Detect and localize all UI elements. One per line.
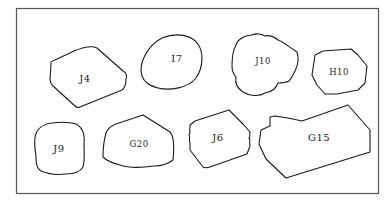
label-j9: J9 bbox=[52, 143, 64, 154]
shape-h10: H10 bbox=[312, 49, 367, 94]
fragment-diagram: J4 I7 J10 H10 J9 G20 J6 G15 bbox=[0, 0, 387, 206]
shape-i7: I7 bbox=[141, 35, 202, 89]
shape-j6: J6 bbox=[189, 110, 250, 168]
label-j6: J6 bbox=[211, 132, 223, 143]
label-g15: G15 bbox=[308, 132, 330, 143]
label-h10: H10 bbox=[329, 67, 349, 77]
shape-j4: J4 bbox=[50, 47, 127, 108]
label-j10: J10 bbox=[254, 56, 271, 66]
label-g20: G20 bbox=[129, 139, 148, 149]
label-i7: I7 bbox=[171, 53, 182, 64]
shape-j9: J9 bbox=[35, 122, 85, 174]
shape-g20: G20 bbox=[103, 115, 174, 167]
shape-g15: G15 bbox=[259, 105, 370, 178]
shape-j10: J10 bbox=[232, 34, 298, 96]
label-j4: J4 bbox=[78, 73, 90, 84]
